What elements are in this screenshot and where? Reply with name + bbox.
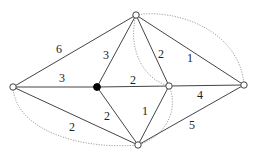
weighted-graph-diagram: 6 3 2 3 2 2 2 1 4 1 5 [0, 0, 257, 157]
weight-center-top: 3 [103, 48, 109, 62]
edge-left-bottom [13, 87, 138, 145]
weight-midright-right: 4 [197, 88, 203, 102]
weight-center-midright: 2 [130, 73, 136, 87]
edge-midright-right [169, 85, 244, 86]
weight-midright-bottom: 1 [142, 104, 148, 118]
node-midright [166, 83, 172, 89]
weight-center-bottom: 2 [104, 109, 110, 123]
weight-bottom-right: 5 [189, 118, 195, 132]
weight-top-midright: 2 [158, 47, 164, 61]
weight-top-right: 1 [187, 51, 193, 65]
weight-left-center: 3 [59, 71, 65, 85]
node-top [133, 12, 139, 18]
node-left [10, 84, 16, 90]
node-bottom [135, 142, 141, 148]
node-right [241, 82, 247, 88]
weight-left-bottom: 2 [69, 120, 75, 134]
weight-left-top: 6 [56, 42, 62, 56]
node-center [94, 84, 101, 91]
edge-left-top [13, 15, 136, 87]
